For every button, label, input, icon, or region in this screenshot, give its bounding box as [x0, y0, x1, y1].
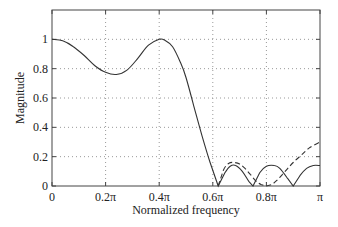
x-tick-label: 0.6π — [202, 190, 223, 204]
y-tick-labels: 00.20.40.60.81 — [33, 32, 48, 193]
x-tick-label: 0.4π — [149, 190, 170, 204]
x-tick-labels: 00.2π0.4π0.6π0.8ππ — [49, 190, 323, 204]
x-tick-label: 0.2π — [95, 190, 116, 204]
y-tick-label: 0.6 — [33, 91, 48, 105]
data-series — [52, 39, 320, 186]
x-axis-label: Normalized frequency — [132, 203, 240, 217]
y-tick-label: 0.8 — [33, 62, 48, 76]
grid-lines — [52, 10, 320, 186]
series-line-solid — [52, 39, 320, 186]
series-line-dashed — [218, 142, 320, 186]
y-tick-label: 0 — [42, 179, 48, 193]
y-tick-label: 1 — [42, 32, 48, 46]
x-tick-label: π — [317, 190, 323, 204]
y-tick-label: 0.4 — [33, 120, 48, 134]
x-tick-label: 0.8π — [256, 190, 277, 204]
y-axis-label: Magnitude — [13, 72, 27, 124]
magnitude-response-chart: 00.2π0.4π0.6π0.8ππ 00.20.40.60.81 Normal… — [0, 0, 338, 227]
x-tick-label: 0 — [49, 190, 55, 204]
y-tick-label: 0.2 — [33, 150, 48, 164]
